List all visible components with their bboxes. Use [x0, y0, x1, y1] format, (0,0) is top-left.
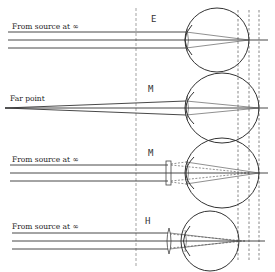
uncorrected-ray-upper: [171, 165, 249, 173]
source-label: From source at ∞: [12, 155, 79, 164]
refracted-ray-lower: [186, 40, 249, 48]
refracted-ray-lower: [170, 241, 238, 249]
panel-emmetropia: From source at ∞ E: [8, 8, 268, 72]
eye-label: E: [151, 14, 156, 24]
uncorrected-ray-lower: [171, 173, 249, 181]
refracted-ray-lower: [186, 108, 259, 115]
diverged-ray-upper: [171, 162, 186, 164]
eye-label: H: [145, 216, 150, 226]
source-label: From source at ∞: [12, 222, 79, 231]
refracted-ray-upper: [186, 32, 249, 40]
refracted-ray-upper: [170, 233, 238, 241]
refraction-diagram: From source at ∞ E Far point M From sour…: [0, 0, 275, 272]
eye-label: M: [148, 148, 154, 158]
source-label: From source at ∞: [12, 22, 79, 31]
panel-hyperopia-corrected: From source at ∞ H: [12, 211, 265, 271]
source-label: Far point: [10, 94, 45, 103]
diverged-ray-lower: [171, 182, 186, 184]
panel-myopia-far-point: Far point M: [5, 73, 268, 143]
refracted-ray-upper: [186, 101, 259, 108]
eye-label: M: [148, 84, 154, 94]
panel-myopia-corrected: From source at ∞ M: [10, 138, 268, 208]
ray-lower: [5, 108, 186, 115]
